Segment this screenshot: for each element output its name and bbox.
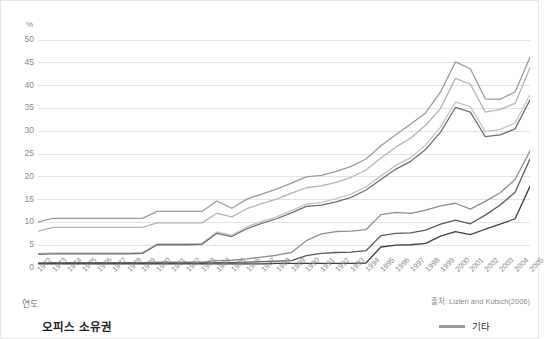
legend-swatch-기타 xyxy=(439,325,465,328)
series-lines xyxy=(38,57,530,264)
y-tick-15: 15 xyxy=(4,195,34,204)
gridlines xyxy=(38,40,530,268)
chart-title: 오피스 소유권 xyxy=(42,318,113,334)
y-tick-10: 10 xyxy=(4,217,34,226)
line-series-2 xyxy=(38,68,530,231)
x-axis-tick-labels: 1972197319741975197619771978197919801981… xyxy=(38,268,530,298)
source-note: 출처: Lizieri and Kutsch(2006) xyxy=(431,295,530,306)
y-tick-25: 25 xyxy=(4,149,34,158)
y-tick-45: 45 xyxy=(4,58,34,67)
y-tick-35: 35 xyxy=(4,103,34,112)
y-tick-5: 5 xyxy=(4,240,34,249)
plot-area xyxy=(38,40,530,268)
y-tick-20: 20 xyxy=(4,172,34,181)
x-axis-title: 연도 xyxy=(22,297,38,310)
chart-svg xyxy=(38,40,530,268)
line-series-7 xyxy=(38,186,530,264)
y-axis-unit-label: % xyxy=(26,20,33,29)
line-series-1 xyxy=(38,57,530,222)
legend-label: 기타 xyxy=(472,319,490,333)
y-tick-30: 30 xyxy=(4,126,34,135)
line-series-5 xyxy=(38,151,530,263)
y-tick-0: 0 xyxy=(4,263,34,272)
line-series-6 xyxy=(38,159,530,263)
y-axis-tick-labels: 05101520253035404550 xyxy=(0,40,34,268)
y-tick-50: 50 xyxy=(4,35,34,44)
x-tick-2005: 2005 xyxy=(528,256,545,273)
line-series-3 xyxy=(38,95,530,254)
y-tick-40: 40 xyxy=(4,81,34,90)
legend: 기타 xyxy=(439,319,490,333)
